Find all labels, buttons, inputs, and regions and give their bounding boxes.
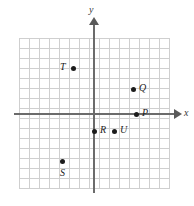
data-point-label: R — [100, 125, 106, 135]
coordinate-plane-figure: x y TQPRUS — [0, 0, 194, 206]
data-point-label: P — [142, 108, 148, 118]
data-point-label: U — [120, 125, 127, 135]
data-point-dot — [134, 112, 139, 117]
data-point-label: Q — [139, 83, 146, 93]
x-axis-arrowhead-icon — [174, 109, 182, 119]
data-point-dot — [60, 159, 65, 164]
y-axis-arrowhead-icon — [89, 17, 99, 25]
x-axis-label: x — [184, 108, 188, 118]
data-point-label: T — [60, 62, 66, 72]
y-axis-line — [93, 21, 95, 193]
data-point-dot — [71, 66, 76, 71]
data-point-label: S — [60, 168, 65, 178]
data-point-dot — [92, 129, 97, 134]
data-point-dot — [112, 129, 117, 134]
data-point-dot — [131, 87, 136, 92]
y-axis-label: y — [89, 5, 93, 15]
x-axis-line — [14, 113, 179, 115]
